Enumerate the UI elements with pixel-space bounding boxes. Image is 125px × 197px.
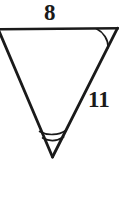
top-right-angle-arc-icon [97, 29, 109, 48]
triangle-side-top [0, 28, 118, 29]
geometry-figure: 8 11 [0, 0, 125, 197]
side-length-label-top: 8 [44, 1, 56, 24]
triangle-side-left [0, 29, 53, 157]
bottom-angle-arc-outer-icon [40, 130, 67, 134]
side-length-label-right: 11 [88, 88, 110, 111]
